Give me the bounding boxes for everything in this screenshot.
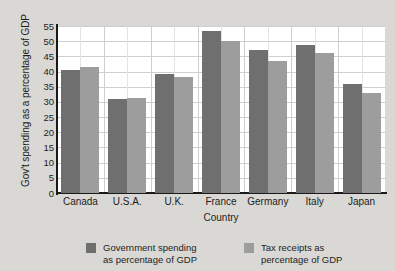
legend-label-line1: Tax receipts as (261, 242, 324, 253)
legend-swatch-icon (244, 243, 254, 253)
x-axis-title: Country (57, 212, 385, 223)
y-axis-tick-label: 15 (32, 143, 54, 152)
y-axis-tick-label: 45 (32, 52, 54, 61)
y-axis-tick-label: 55 (32, 22, 54, 31)
legend-item-label: Government spending as percentage of GDP (103, 242, 197, 265)
bar (155, 74, 174, 193)
y-axis-tick-label: 50 (32, 37, 54, 46)
bar-group (57, 26, 104, 193)
x-axis-tick-label: Italy (291, 196, 338, 207)
x-axis-tick-label: Canada (57, 196, 104, 207)
bar (362, 93, 381, 193)
bar (221, 41, 240, 193)
y-axis-tick-labels: 0510152025303540455055 (30, 26, 54, 193)
x-axis-tick-labels: CanadaU.S.A.U.K.FranceGermanyItalyJapan (57, 196, 385, 212)
bar (202, 31, 221, 193)
bar-group (291, 26, 338, 193)
x-axis-tick-label: U.K. (151, 196, 198, 207)
y-axis-tick-label: 40 (32, 67, 54, 76)
y-axis-tick-label: 0 (32, 189, 54, 198)
x-axis-tick-label: U.S.A. (104, 196, 151, 207)
y-axis-tick-label: 20 (32, 128, 54, 137)
bar-chart: Gov't spending as a percentage of GDP 05… (0, 0, 395, 271)
legend-item-government-spending: Government spending as percentage of GDP (86, 242, 197, 265)
chart-legend: Government spending as percentage of GDP… (86, 242, 386, 270)
bar (343, 84, 362, 193)
bar (268, 61, 287, 193)
legend-item-tax-receipts: Tax receipts as percentage of GDP (244, 242, 342, 265)
x-axis-tick-label: Germany (244, 196, 291, 207)
bar (61, 70, 80, 193)
bar (108, 99, 127, 193)
bars-layer (57, 26, 385, 193)
bar (249, 50, 268, 193)
bar-group (151, 26, 198, 193)
y-axis-tick-label: 25 (32, 113, 54, 122)
legend-item-label: Tax receipts as percentage of GDP (261, 242, 342, 265)
bar-group (338, 26, 385, 193)
x-axis-tick-label: Japan (338, 196, 385, 207)
bar (315, 53, 334, 193)
bar-group (244, 26, 291, 193)
y-axis-tick-label: 35 (32, 82, 54, 91)
bar-group (198, 26, 245, 193)
legend-label-line1: Government spending (103, 242, 196, 253)
bar (127, 98, 146, 193)
x-axis-tick-label: France (198, 196, 245, 207)
legend-swatch-icon (86, 243, 96, 253)
y-axis-tick-label: 30 (32, 97, 54, 106)
bar (174, 77, 193, 193)
bar (296, 45, 315, 193)
bar-group (104, 26, 151, 193)
bar (80, 67, 99, 193)
y-axis-title: Gov't spending as a percentage of GDP (20, 1, 31, 201)
legend-label-line2: as percentage of GDP (103, 254, 197, 265)
y-axis-tick-label: 5 (32, 173, 54, 182)
y-axis-tick-label: 10 (32, 158, 54, 167)
legend-label-line2: percentage of GDP (261, 254, 342, 265)
